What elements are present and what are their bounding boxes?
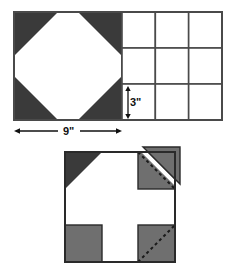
grid-cell-r2c2 [155,48,188,84]
height-dimension-label: 3" [130,96,141,108]
top-diagram: 3" 9" [14,12,222,138]
grid-cell-r1c3 [189,12,222,48]
grid-cell-r2c1 [122,48,155,84]
bottom-diagram [65,147,180,262]
grid-cell-r1c2 [155,12,188,48]
grid-cell-r3c3 [189,84,222,120]
grid-cell-r1c1 [122,12,155,48]
figure-root: 3" 9" [0,0,241,269]
grid-cell-r3c2 [155,84,188,120]
width-dimension-label: 9" [63,125,74,137]
cross-corner-square-bottom-left [65,225,102,262]
grid-cell-r2c3 [189,48,222,84]
geometry-figure: 3" 9" [0,0,241,269]
